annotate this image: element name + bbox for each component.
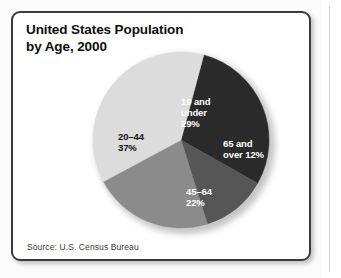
pie-label-20-44-line-1: 20–44 [118, 131, 144, 142]
pie-label-19-and-under-line-1: 19 and [181, 96, 211, 107]
pie-chart: 19 and under 29% 65 and over 12% 45–64 2… [91, 48, 279, 236]
pie-label-19-and-under-value: 29% [181, 118, 211, 129]
pie-label-45-64-value: 22% [186, 197, 212, 208]
pie-label-65-and-over-line-2: over 12% [223, 149, 264, 160]
source-note: Source: U.S. Census Bureau [27, 242, 139, 252]
adjacent-page-edge [329, 6, 330, 272]
pie-label-19-and-under-line-2: under [181, 107, 211, 118]
page-gutter [322, 0, 341, 278]
figure-title-line-1: United States Population [26, 22, 256, 39]
pie-label-45-64-line-1: 45–64 [186, 186, 212, 197]
pie-label-20-44-value: 37% [118, 142, 144, 153]
pie-label-19-and-under: 19 and under 29% [181, 96, 211, 130]
pie-label-65-and-over: 65 and over 12% [223, 138, 264, 160]
figure-panel: United States Population by Age, 2000 19… [11, 11, 311, 261]
pie-label-65-and-over-line-1: 65 and [223, 138, 264, 149]
pie-label-45-64: 45–64 22% [186, 186, 212, 208]
pie-label-20-44: 20–44 37% [118, 131, 144, 153]
